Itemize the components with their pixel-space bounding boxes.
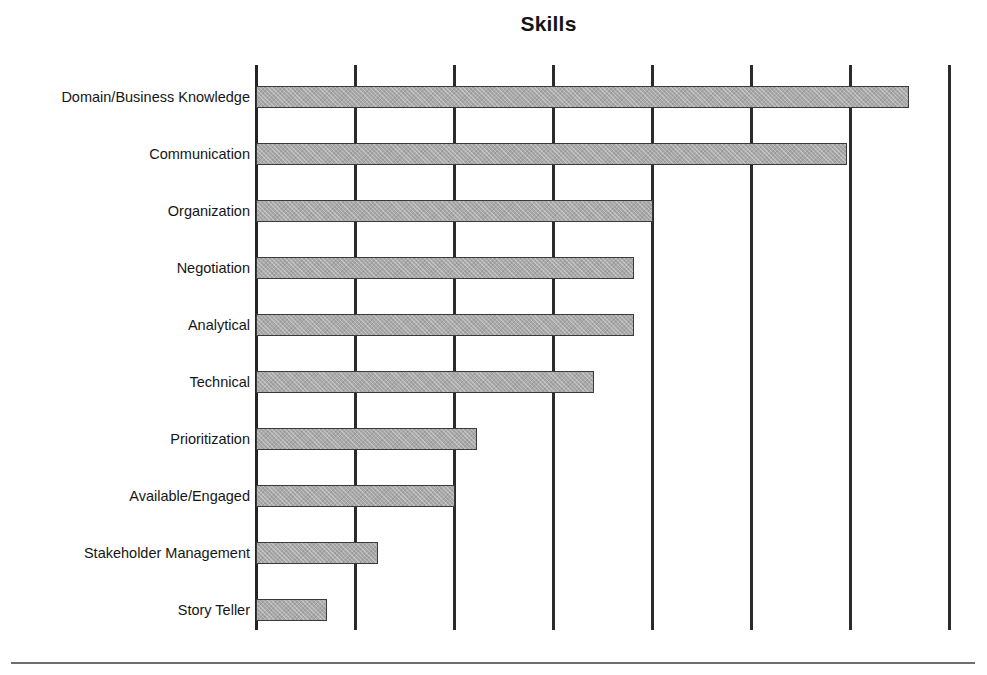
- category-label-domain-business-knowledge: Domain/Business Knowledge: [5, 86, 250, 108]
- category-label-story-teller: Story Teller: [5, 599, 250, 621]
- bar-communication: [256, 143, 847, 165]
- category-label-technical: Technical: [5, 371, 250, 393]
- bar-technical: [256, 371, 594, 393]
- category-label-prioritization: Prioritization: [5, 428, 250, 450]
- category-label-available-engaged: Available/Engaged: [5, 485, 250, 507]
- bar-prioritization: [256, 428, 477, 450]
- bar-available-engaged: [256, 485, 455, 507]
- bar-analytical: [256, 314, 634, 336]
- bar-stakeholder-management: [256, 542, 378, 564]
- gridline-7: [948, 65, 951, 630]
- bar-negotiation: [256, 257, 634, 279]
- plot-area: [256, 65, 949, 630]
- bar-organization: [256, 200, 653, 222]
- category-label-organization: Organization: [5, 200, 250, 222]
- chart-figure: Skills Domain/Business Knowledge Communi…: [0, 0, 987, 675]
- gridline-6: [849, 65, 852, 630]
- category-label-stakeholder-management: Stakeholder Management: [5, 542, 250, 564]
- category-label-communication: Communication: [5, 143, 250, 165]
- category-label-analytical: Analytical: [5, 314, 250, 336]
- bar-domain-business-knowledge: [256, 86, 909, 108]
- category-label-negotiation: Negotiation: [5, 257, 250, 279]
- chart-title: Skills: [0, 12, 987, 36]
- footer-divider: [11, 662, 975, 664]
- category-axis-labels: Domain/Business Knowledge Communication …: [0, 65, 250, 630]
- bar-story-teller: [256, 599, 327, 621]
